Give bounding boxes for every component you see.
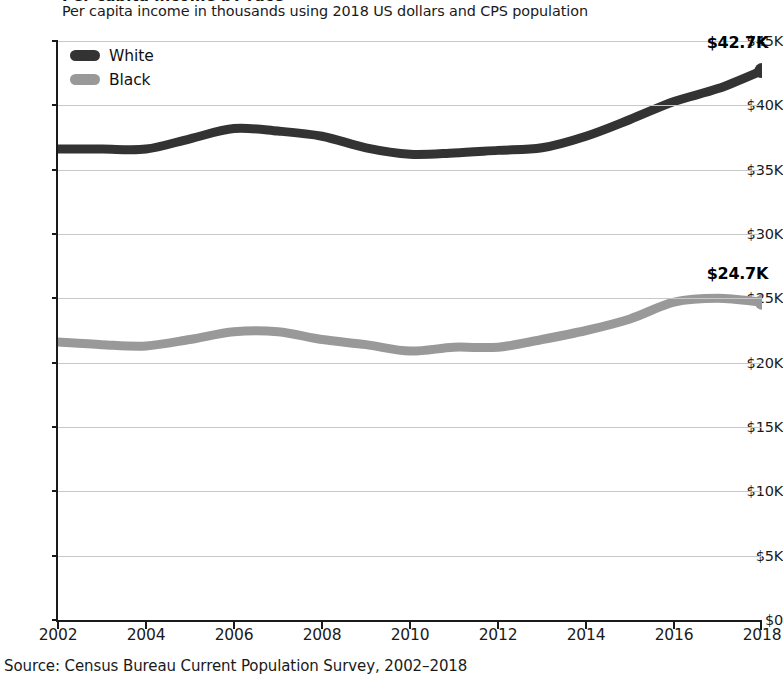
gridline (58, 556, 762, 557)
x-axis-tick-mark (321, 620, 323, 629)
x-axis-tick-mark (57, 620, 59, 629)
gridline (58, 105, 762, 106)
legend-item-label: Black (109, 71, 150, 89)
gridline (58, 427, 762, 428)
gridline (58, 170, 762, 171)
x-axis-tick-mark (585, 620, 587, 629)
legend-item-black[interactable]: Black (70, 69, 154, 90)
x-axis-tick-mark (233, 620, 235, 629)
legend-swatch-icon (70, 50, 100, 61)
chart-subtitle: Per capita income in thousands using 201… (62, 3, 588, 19)
chart-title: Per capita income by race (62, 0, 762, 1)
gridline (58, 234, 762, 235)
gridline (58, 491, 762, 492)
end-label-white: $42.7K (707, 33, 768, 52)
gridline (58, 41, 762, 42)
legend-item-white[interactable]: White (70, 45, 154, 66)
chart-legend: WhiteBlack (70, 45, 154, 90)
chart-figure: Per capita income by race Per capita inc… (0, 0, 783, 683)
x-axis-tick-mark (409, 620, 411, 629)
legend-item-label: White (109, 47, 154, 65)
x-axis-tick-mark (145, 620, 147, 629)
legend-swatch-icon (70, 74, 100, 85)
x-axis-tick-mark (497, 620, 499, 629)
series-line-white (58, 71, 762, 155)
gridline (58, 363, 762, 364)
series-line-black (58, 298, 762, 351)
gridline (58, 298, 762, 299)
x-axis-tick-label: 2018 (743, 626, 782, 644)
end-label-black: $24.7K (707, 264, 768, 283)
source-note: Source: Census Bureau Current Population… (4, 657, 467, 675)
series-endpoint-black (755, 295, 763, 310)
x-axis-tick-mark (673, 620, 675, 629)
series-lines (58, 41, 762, 620)
plot-area (58, 41, 762, 620)
